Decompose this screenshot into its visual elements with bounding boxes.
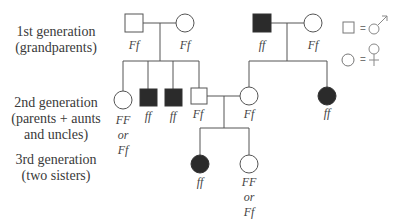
gen2-female-1-genotype-line3: Ff [117, 143, 130, 157]
gen1-right-male-affected-square-icon [253, 14, 271, 32]
gen1-left-male-genotype: Ff [128, 38, 141, 52]
legend-female-equals: = [360, 54, 366, 65]
gen1-left-female-circle-icon [176, 14, 194, 32]
gen2-male-3-genotype: ff [170, 109, 178, 123]
pedigree-chart: Ff Ff ff Ff FF or Ff ff ff Ff Ff ff ff F… [0, 0, 401, 224]
legend: = = [342, 16, 387, 66]
gen3-female-2-circle-icon [240, 155, 258, 173]
gen2-male-2-affected-square-icon [140, 89, 157, 106]
gen2-female-5-circle-icon [240, 87, 258, 105]
gen3-female-1-genotype: ff [197, 175, 205, 189]
gen2-female-1-genotype-line1: FF [115, 113, 131, 127]
gen3-female-2-genotype-line2: or [244, 190, 255, 204]
legend-female-circle-icon [342, 54, 354, 66]
legend-male-square-icon [343, 22, 354, 33]
legend-male-equals: = [360, 23, 366, 34]
gen1-left-male-square-icon [125, 14, 143, 32]
gen2-female-6-genotype: ff [324, 106, 332, 120]
gen2-male-4-square-icon [191, 88, 207, 104]
gen1-right-female-genotype: Ff [307, 38, 320, 52]
male-symbol-icon [369, 16, 387, 34]
gen1-left-female-genotype: Ff [179, 38, 192, 52]
gen2-male-3-affected-square-icon [165, 89, 182, 106]
gen3-female-1-affected-circle-icon [191, 155, 209, 173]
gen2-male-4-genotype: Ff [192, 107, 205, 121]
gen2-female-5-genotype: Ff [243, 107, 256, 121]
gen2-female-1-genotype-line2: or [118, 128, 129, 142]
gen1-right-female-circle-icon [304, 14, 322, 32]
gen3-female-2-genotype-line1: FF [241, 175, 257, 189]
gen2-female-1-circle-icon [114, 91, 132, 109]
gen1-right-male-genotype: ff [259, 38, 267, 52]
gen2-female-6-affected-circle-icon [318, 87, 336, 105]
female-symbol-icon [369, 44, 379, 66]
gen3-female-2-genotype-line3: Ff [243, 205, 256, 219]
gen2-male-2-genotype: ff [145, 109, 153, 123]
